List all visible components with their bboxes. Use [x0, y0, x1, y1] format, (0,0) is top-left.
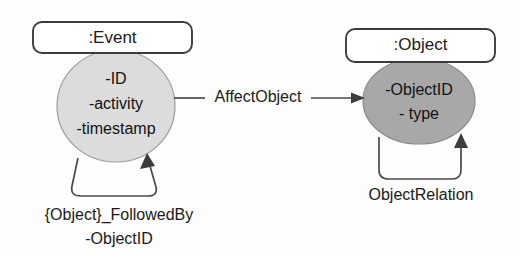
event-attribute-timestamp: -timestamp — [76, 120, 155, 137]
object-attribute-ellipse — [363, 58, 475, 144]
followed-by-label-line1: {Object}_FollowedBy — [45, 206, 194, 224]
diagram-svg: :Event -ID -activity -timestamp :Object … — [0, 0, 519, 257]
event-class-label: :Event — [88, 28, 136, 47]
diagram-canvas: :Event -ID -activity -timestamp :Object … — [0, 0, 519, 257]
object-relation-arrowhead — [454, 133, 468, 148]
affect-object-label: AffectObject — [215, 88, 302, 105]
self-loop-followed-by[interactable]: {Object}_FollowedBy -ObjectID — [45, 153, 194, 247]
object-attribute-objectid: -ObjectID — [385, 81, 453, 98]
node-object[interactable]: :Object -ObjectID - type — [346, 29, 495, 144]
event-attribute-activity: -activity — [89, 95, 143, 112]
object-class-label: :Object — [394, 35, 448, 54]
edge-affect-object[interactable]: AffectObject — [174, 88, 365, 105]
object-attribute-type: - type — [399, 105, 439, 122]
event-attribute-id: -ID — [105, 70, 126, 87]
node-event[interactable]: :Event -ID -activity -timestamp — [33, 22, 192, 162]
object-relation-label: ObjectRelation — [369, 186, 474, 203]
followed-by-label-line2: -ObjectID — [85, 230, 153, 247]
